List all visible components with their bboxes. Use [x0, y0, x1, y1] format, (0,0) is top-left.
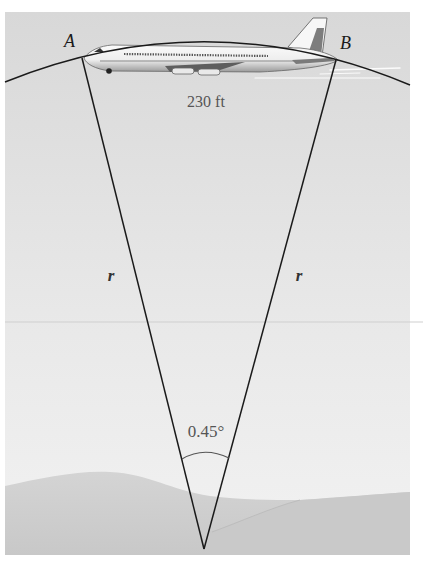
arc-length-diagram: A B 230 ft r r 0.45° — [0, 0, 423, 572]
label-central-angle: 0.45° — [188, 422, 225, 441]
engine-2 — [198, 69, 220, 75]
nose-gear — [106, 68, 112, 74]
label-point-b: B — [340, 33, 351, 53]
engine-1 — [172, 68, 194, 74]
label-radius-left: r — [108, 266, 115, 285]
label-radius-right: r — [296, 266, 303, 285]
label-arc-length: 230 ft — [187, 93, 225, 110]
label-point-a: A — [63, 31, 76, 51]
